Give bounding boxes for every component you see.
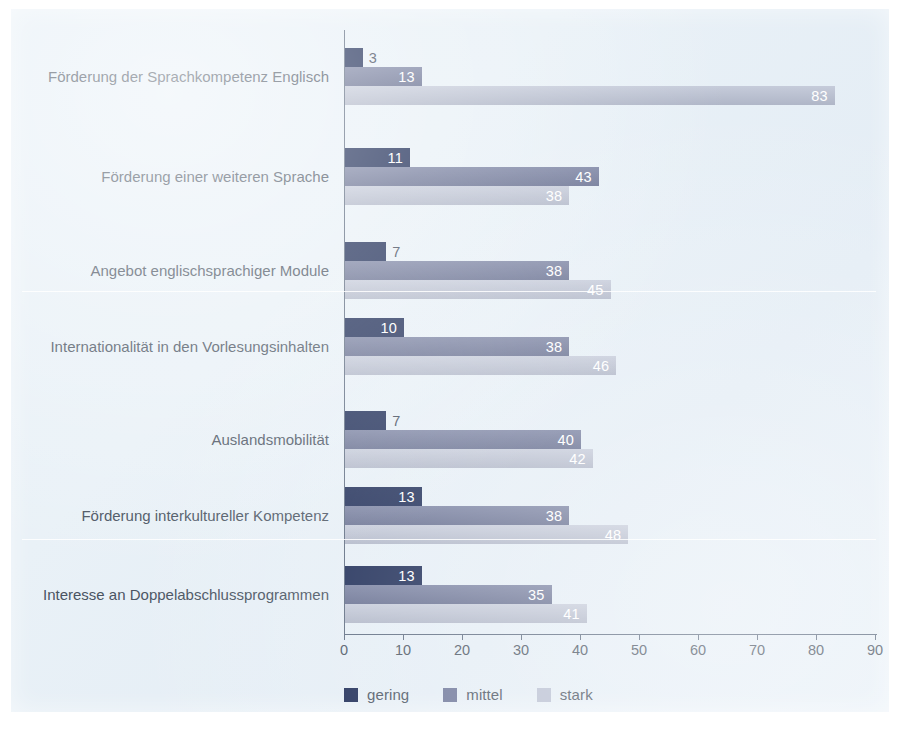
bar-group: Förderung einer weiteren Sprache114338 [345,148,876,205]
bar-value-label: 11 [387,149,409,167]
bar-row: 13 [345,566,876,585]
chart-legend: geringmittelstark [344,686,627,703]
plot-area: Förderung der Sprachkompetenz Englisch31… [344,30,876,634]
bar-row: 38 [345,337,876,356]
bar-gering [345,48,363,67]
bar-row: 38 [345,261,876,280]
bar-value-label: 83 [811,87,835,105]
bar-stark [345,186,569,205]
bar-row: 45 [345,280,876,299]
bar-group: Interesse an Doppelabschlussprogrammen13… [345,566,876,623]
bar-value-label: 7 [386,243,400,261]
bar-row: 13 [345,67,876,86]
x-axis-tick-label: 90 [867,642,883,658]
bar-value-label: 13 [398,567,422,585]
bar-row: 10 [345,318,876,337]
bar-row: 7 [345,242,876,261]
legend-swatch-icon [537,688,551,702]
bar-mittel [345,585,552,604]
bar-stark [345,86,835,105]
x-axis-tick-label: 0 [340,642,348,658]
bar-group: Angebot englischsprachiger Module73845 [345,242,876,299]
bar-group: Förderung der Sprachkompetenz Englisch31… [345,48,876,105]
bar-row: 41 [345,604,876,623]
bar-mittel [345,506,569,525]
bar-row: 11 [345,148,876,167]
legend-label: stark [560,686,593,703]
bar-stark [345,604,587,623]
bar-value-label: 38 [546,338,570,356]
category-label: Internationalität in den Vorlesungsinhal… [23,338,329,355]
category-label: Förderung der Sprachkompetenz Englisch [23,68,329,85]
bar-mittel [345,261,569,280]
bar-value-label: 38 [546,262,570,280]
bar-value-label: 3 [363,49,377,67]
bar-row: 40 [345,430,876,449]
bar-value-label: 7 [386,412,400,430]
x-axis-tick-label: 80 [808,642,824,658]
x-axis-ticks: 0102030405060708090 [344,634,877,666]
scanned-page: Förderung der Sprachkompetenz Englisch31… [0,0,900,729]
bar-row: 43 [345,167,876,186]
bar-gering [345,411,386,430]
bar-row: 13 [345,487,876,506]
bar-row: 35 [345,585,876,604]
bar-value-label: 10 [380,319,404,337]
bar-value-label: 40 [557,431,581,449]
x-axis-tick [816,634,817,640]
bar-mittel [345,167,599,186]
x-axis-tick [757,634,758,640]
bar-value-label: 41 [563,605,587,623]
bar-row: 3 [345,48,876,67]
category-label: Förderung einer weiteren Sprache [23,168,329,185]
bar-mittel [345,337,569,356]
bar-group: Internationalität in den Vorlesungsinhal… [345,318,876,375]
bar-value-label: 38 [546,507,570,525]
category-label: Interesse an Doppelabschlussprogrammen [23,586,329,603]
bar-row: 42 [345,449,876,468]
category-label: Angebot englischsprachiger Module [23,262,329,279]
x-axis-tick-label: 20 [454,642,470,658]
x-axis-tick-label: 50 [631,642,647,658]
legend-swatch-icon [443,688,457,702]
bar-row: 83 [345,86,876,105]
legend-item-mittel: mittel [443,686,502,703]
x-axis-tick [580,634,581,640]
category-label: Förderung interkultureller Kompetenz [23,507,329,524]
bar-row: 38 [345,506,876,525]
bar-value-label: 45 [587,281,611,299]
bar-stark [345,449,593,468]
x-axis-tick-label: 10 [395,642,411,658]
bar-row: 7 [345,411,876,430]
bar-stark [345,356,616,375]
bar-value-label: 42 [569,450,593,468]
bar-group: Förderung interkultureller Kompetenz1338… [345,487,876,544]
legend-label: gering [367,686,409,703]
legend-item-stark: stark [537,686,593,703]
bar-value-label: 48 [605,526,629,544]
bar-stark [345,525,628,544]
bar-row: 46 [345,356,876,375]
x-axis-tick [875,634,876,640]
x-axis-tick [344,634,345,640]
category-label: Auslandsmobilität [23,431,329,448]
bar-row: 38 [345,186,876,205]
bar-gering [345,242,386,261]
bar-value-label: 46 [593,357,617,375]
bar-value-label: 13 [398,68,422,86]
x-axis-tick [462,634,463,640]
x-axis-tick [403,634,404,640]
x-axis-tick [698,634,699,640]
x-axis-tick-label: 60 [690,642,706,658]
bar-mittel [345,430,581,449]
bar-value-label: 38 [546,187,570,205]
x-axis-tick-label: 30 [513,642,529,658]
x-axis-tick [639,634,640,640]
bar-value-label: 13 [398,488,422,506]
legend-swatch-icon [344,688,358,702]
bar-group: Auslandsmobilität74042 [345,411,876,468]
x-axis-tick [521,634,522,640]
x-axis-tick-label: 70 [749,642,765,658]
x-axis-tick-label: 40 [572,642,588,658]
bar-row: 48 [345,525,876,544]
